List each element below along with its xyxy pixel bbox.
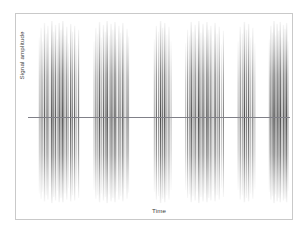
spike-positive xyxy=(223,31,224,117)
spike-positive xyxy=(99,22,100,117)
spike-positive xyxy=(50,47,51,117)
spike-positive xyxy=(58,23,59,117)
spike-negative xyxy=(47,117,48,200)
spike-negative xyxy=(221,117,222,188)
spike-positive xyxy=(240,27,241,117)
spike-positive xyxy=(66,27,67,117)
spike-positive xyxy=(72,32,73,117)
spike-positive xyxy=(221,44,222,117)
spike-positive xyxy=(187,30,188,117)
spike-negative xyxy=(72,117,73,195)
spike-positive xyxy=(60,30,61,117)
spike-negative xyxy=(99,117,100,202)
burst-group xyxy=(94,21,129,203)
burst-group xyxy=(269,21,289,203)
spike-negative xyxy=(41,117,42,199)
spike-negative xyxy=(217,117,218,195)
spike-negative xyxy=(273,117,275,203)
spike-negative xyxy=(166,117,167,195)
spike-positive xyxy=(55,25,56,117)
spike-negative xyxy=(58,117,59,202)
spike-positive xyxy=(238,41,239,117)
spike-negative xyxy=(94,117,95,190)
spike-negative xyxy=(191,117,192,202)
spike-negative xyxy=(101,117,102,194)
spike-positive xyxy=(286,23,287,117)
spike-positive xyxy=(110,24,111,117)
spike-positive xyxy=(276,24,277,117)
spike-positive xyxy=(114,22,115,117)
spike-negative xyxy=(197,117,198,192)
spike-negative xyxy=(219,117,220,200)
spike-positive xyxy=(103,25,104,117)
spike-positive xyxy=(252,28,253,117)
spike-positive xyxy=(160,21,161,117)
spike-positive xyxy=(270,26,271,117)
spike-positive xyxy=(281,37,282,117)
spike-negative xyxy=(223,117,224,197)
spike-positive xyxy=(242,34,243,117)
spike-negative xyxy=(288,117,289,191)
spike-positive xyxy=(126,29,127,117)
spike-positive xyxy=(164,23,165,117)
figure-container: Signal amplitude Time xyxy=(0,0,307,233)
spike-negative xyxy=(168,117,169,200)
spike-positive xyxy=(244,22,245,117)
spike-positive xyxy=(39,37,40,117)
spike-positive xyxy=(156,26,157,117)
spike-negative xyxy=(70,117,71,201)
spike-negative xyxy=(269,117,270,192)
spike-negative xyxy=(162,117,163,199)
spike-positive xyxy=(94,41,95,117)
spike-positive xyxy=(198,21,200,117)
spike-negative xyxy=(128,117,129,193)
spike-positive xyxy=(250,37,251,117)
spike-positive xyxy=(70,24,71,117)
spike-positive xyxy=(193,32,194,117)
spike-positive xyxy=(248,24,249,117)
burst-group xyxy=(238,22,256,202)
spike-positive xyxy=(158,32,159,117)
spike-negative xyxy=(214,117,215,201)
spike-positive xyxy=(168,27,169,117)
spike-positive xyxy=(202,24,203,117)
spike-negative xyxy=(105,117,106,197)
spike-negative xyxy=(238,117,239,190)
spike-negative xyxy=(210,117,211,201)
spike-negative xyxy=(185,117,186,190)
spike-positive xyxy=(217,34,218,117)
spike-negative xyxy=(171,117,172,190)
spike-positive xyxy=(288,41,289,117)
spike-negative xyxy=(118,117,119,200)
spike-positive xyxy=(278,31,279,117)
spike-positive xyxy=(106,21,108,117)
spike-negative xyxy=(66,117,67,200)
spike-positive xyxy=(120,33,121,117)
spike-negative xyxy=(64,117,65,194)
spike-positive xyxy=(125,43,126,117)
spike-positive xyxy=(269,39,270,117)
spike-positive xyxy=(273,21,275,117)
y-axis-label: Signal amplitude xyxy=(18,21,25,91)
spike-positive xyxy=(128,36,129,117)
spike-negative xyxy=(160,117,161,203)
spike-positive xyxy=(122,23,123,117)
spike-negative xyxy=(95,117,96,199)
spike-positive xyxy=(47,26,48,117)
spike-positive xyxy=(280,22,281,117)
spike-negative xyxy=(254,117,255,189)
spike-negative xyxy=(62,117,64,202)
spike-train-plot xyxy=(28,16,290,208)
spike-negative xyxy=(120,117,121,196)
spike-positive xyxy=(51,21,52,117)
spike-negative xyxy=(246,117,247,198)
spike-positive xyxy=(68,43,69,117)
spike-negative xyxy=(193,117,194,196)
spike-negative xyxy=(154,117,155,192)
spike-negative xyxy=(240,117,241,200)
spike-negative xyxy=(57,117,58,191)
spike-positive xyxy=(46,34,47,117)
spike-negative xyxy=(103,117,104,201)
spike-negative xyxy=(156,117,157,200)
spike-negative xyxy=(42,117,43,192)
